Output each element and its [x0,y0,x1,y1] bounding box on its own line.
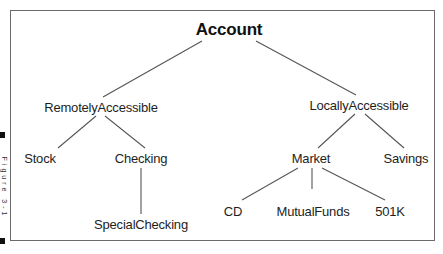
edge-remote-stock [58,116,96,148]
edge-account-remote [103,41,202,97]
node-local: LocallyAccessible [309,98,408,113]
node-stock: Stock [24,151,56,166]
node-cd: CD [224,204,242,219]
edge-account-local [256,41,356,95]
edge-market-k501 [322,168,385,200]
node-market: Market [292,151,331,166]
node-remote: RemotelyAccessible [44,100,157,115]
edge-local-savings [365,114,404,148]
node-mutual: MutualFunds [277,204,350,219]
node-savings: Savings [384,151,429,166]
figure-label: Figure 3-1 [1,140,8,236]
edge-remote-checking [105,116,145,148]
node-k501: 501K [375,204,405,219]
marker-square-top [0,132,5,138]
node-special: SpecialChecking [94,217,188,232]
node-checking: Checking [115,151,168,166]
edge-market-cd [242,168,298,200]
figure-label-strip: Figure 3-1 [0,132,6,244]
node-account: Account [196,20,263,40]
marker-square-bottom [0,238,5,244]
edge-local-market [318,114,355,148]
